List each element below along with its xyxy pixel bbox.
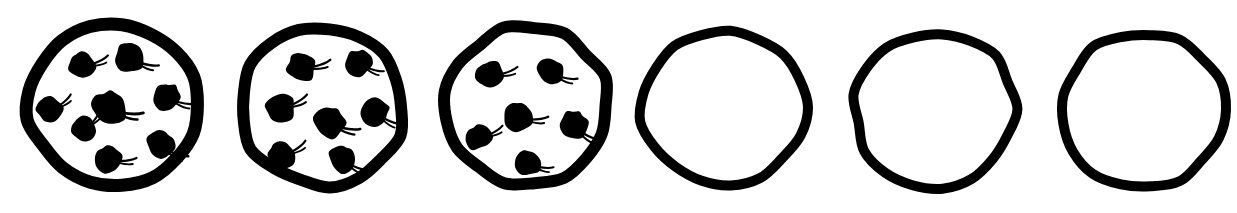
chip-body xyxy=(323,142,359,177)
chocolate-chip xyxy=(32,83,77,127)
cookie-1 xyxy=(9,6,219,204)
chocolate-chip xyxy=(472,53,521,91)
chocolate-chip xyxy=(514,149,555,178)
chip-body xyxy=(343,46,376,80)
chip-body xyxy=(93,144,124,175)
chip-tail xyxy=(530,117,548,120)
chocolate-chip xyxy=(503,100,549,133)
cookie-2 xyxy=(222,11,422,203)
chocolate-chip xyxy=(113,41,162,79)
chocolate-chip xyxy=(63,42,112,83)
chocolate-chip xyxy=(282,44,335,87)
cookie-row xyxy=(0,0,1237,213)
chip-body xyxy=(32,92,67,127)
cookie-outline xyxy=(853,34,1017,189)
chip-body xyxy=(262,89,302,129)
cookie-3 xyxy=(427,9,627,203)
cookie-outline xyxy=(1062,35,1226,187)
chip-body xyxy=(556,106,593,143)
chip-body xyxy=(113,41,147,76)
cookie-5 xyxy=(839,16,1031,202)
chocolate-chip xyxy=(310,105,362,143)
chip-tail xyxy=(561,76,578,80)
chip-tail xyxy=(59,94,72,105)
chocolate-chip xyxy=(534,57,580,89)
chip-tail xyxy=(119,161,133,165)
cookie-4 xyxy=(625,13,821,201)
chip-body xyxy=(534,57,565,86)
chocolate-chip xyxy=(262,82,314,129)
cookie-illustration xyxy=(0,0,1237,213)
cookie-outline xyxy=(640,31,808,186)
chip-body xyxy=(310,105,348,141)
cookie-6 xyxy=(1046,16,1237,204)
chip-tail xyxy=(292,141,307,152)
chip-tail xyxy=(313,60,330,67)
chip-body xyxy=(503,102,534,133)
chip-body xyxy=(357,94,392,131)
chip-body xyxy=(514,149,543,177)
chocolate-chip xyxy=(461,114,507,154)
chocolate-chip xyxy=(93,142,137,174)
chip-body xyxy=(152,81,183,113)
